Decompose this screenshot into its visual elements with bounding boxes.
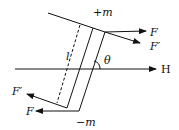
plus-m-label: +m — [93, 6, 113, 19]
angle-label: θ — [104, 54, 111, 67]
force-bottom-prime-label: F′ — [11, 85, 23, 98]
force-top-prime-arrow — [105, 32, 140, 43]
length-dashed-line — [57, 25, 80, 103]
force-bottom-label: F — [25, 105, 34, 118]
force-top-arrow — [105, 31, 146, 32]
magnet-left-edge — [67, 28, 93, 108]
dipole-diagram: +m F F′ l θ H F′ F −m — [0, 0, 179, 130]
length-label: l — [66, 50, 70, 63]
magnet-right-edge — [79, 32, 105, 111]
force-top-label: F — [149, 26, 158, 39]
field-label: H — [161, 63, 171, 76]
force-top-prime-label: F′ — [149, 40, 161, 53]
minus-m-label: −m — [76, 116, 96, 129]
